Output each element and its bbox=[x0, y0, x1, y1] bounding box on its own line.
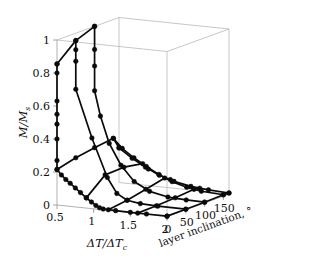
series-inclination-50-marker-4 bbox=[90, 136, 95, 141]
series-inclination-165-line bbox=[119, 148, 229, 193]
series-inclination-0-marker-5 bbox=[55, 137, 60, 142]
series-inclination-0-marker-11 bbox=[73, 186, 78, 191]
series-inclination-50-marker-1 bbox=[73, 47, 78, 52]
x-axis-title-sub: c bbox=[123, 243, 128, 252]
cross-temp-0.9-cross-marker-2 bbox=[122, 165, 127, 170]
cross-temp-1.2-cross-marker-1 bbox=[125, 198, 130, 203]
z-axis-title-text: M/Ms bbox=[16, 107, 32, 139]
data-series-layer bbox=[55, 24, 232, 218]
series-inclination-0-marker-6 bbox=[55, 158, 60, 163]
z-axis-title: M/Ms bbox=[16, 107, 32, 139]
cross-temp-2.0-cross-marker-2 bbox=[202, 200, 207, 205]
series-inclination-100-marker-10 bbox=[184, 198, 189, 203]
box-top-right bbox=[167, 29, 229, 52]
cross-temp-2.0-cross-marker-1 bbox=[183, 207, 188, 212]
series-inclination-150-marker-6 bbox=[184, 185, 189, 190]
cross-temp-2.0-cross-marker-0 bbox=[165, 214, 170, 219]
cross-temp-1.6-cross-marker-3 bbox=[192, 187, 197, 192]
x-tick-label-1: 1 bbox=[88, 215, 95, 228]
series-inclination-100-marker-7 bbox=[132, 179, 137, 184]
z-tick-label-2: 0.4 bbox=[33, 133, 51, 146]
series-inclination-100-marker-4 bbox=[98, 114, 103, 119]
series-inclination-165-marker-6 bbox=[206, 188, 211, 193]
series-inclination-0-marker-19 bbox=[128, 210, 133, 215]
cross-temp-1.6-cross-marker-1 bbox=[154, 203, 159, 208]
z-tick-label-3: 0.6 bbox=[33, 100, 51, 113]
box-top-left bbox=[57, 18, 119, 41]
series-inclination-100-marker-1 bbox=[92, 47, 97, 52]
cross-temp-0.5-cross-low-marker-2 bbox=[92, 145, 97, 150]
cross-temp-0.5-cross-marker-2 bbox=[92, 24, 97, 29]
series-inclination-50-marker-8 bbox=[138, 201, 143, 206]
series-inclination-100-marker-3 bbox=[92, 88, 97, 93]
series-inclination-0-marker-3 bbox=[55, 112, 60, 117]
series-inclination-100-line bbox=[95, 26, 205, 202]
cross-temp-1.2-cross-marker-4 bbox=[168, 177, 173, 182]
series-inclination-50-marker-3 bbox=[73, 87, 78, 92]
series-inclination-0-marker-14 bbox=[89, 200, 94, 205]
x-tick-label-0: 0.5 bbox=[46, 211, 64, 224]
z-tick-label-5: 1 bbox=[43, 34, 50, 47]
cross-temp-0.9-cross-marker-4 bbox=[146, 167, 151, 172]
series-inclination-0-marker-20 bbox=[144, 212, 149, 217]
cross-temp-1.2-cross-marker-0 bbox=[106, 207, 111, 212]
series-inclination-0-marker-10 bbox=[68, 181, 73, 186]
cross-temp-0.9-cross-marker-1 bbox=[103, 173, 108, 178]
x-tick-label-2: 1.5 bbox=[120, 219, 138, 232]
series-inclination-100-marker-2 bbox=[92, 64, 97, 69]
cross-temp-2.0-cross-marker-4 bbox=[227, 191, 232, 196]
series-inclination-50-marker-6 bbox=[115, 191, 120, 196]
z-tick-label-4: 0.8 bbox=[33, 67, 51, 80]
cross-temp-0.5-cross-marker-0 bbox=[55, 62, 60, 67]
cross-temp-0.5-cross-low-marker-4 bbox=[117, 146, 122, 151]
series-inclination-0-marker-18 bbox=[113, 208, 118, 213]
cross-temp-0.9-cross-marker-3 bbox=[140, 161, 145, 166]
axes-labels-layer: 00.20.40.60.810.511.52050100150M/MsΔT/ΔT… bbox=[16, 34, 254, 252]
series-inclination-0-marker-8 bbox=[59, 173, 64, 178]
cross-temp-1.6-cross-marker-4 bbox=[197, 186, 202, 191]
cross-temp-1.2-cross-marker-3 bbox=[162, 176, 167, 181]
cross-temp-1.6-cross-marker-2 bbox=[173, 196, 178, 201]
series-inclination-0-marker-4 bbox=[55, 122, 60, 127]
series-inclination-0-marker-2 bbox=[55, 99, 60, 104]
series-inclination-0-marker-12 bbox=[78, 190, 83, 195]
x-axis-title: ΔT/ΔTc bbox=[86, 236, 128, 252]
series-inclination-0-marker-9 bbox=[64, 177, 69, 182]
cross-temp-0.5-cross-marker-1 bbox=[73, 38, 78, 43]
series-inclination-165-marker-3 bbox=[157, 173, 162, 178]
series-inclination-100-marker-5 bbox=[107, 141, 112, 146]
series-inclination-50-marker-2 bbox=[73, 59, 78, 64]
cross-temp-0.9-cross-marker-0 bbox=[84, 196, 89, 201]
series-inclination-0-marker-1 bbox=[55, 71, 60, 76]
series-inclination-165-marker-1 bbox=[130, 156, 135, 161]
plot-figure: 00.20.40.60.810.511.52050100150M/MsΔT/ΔT… bbox=[0, 0, 336, 264]
z-axis-title-sub: s bbox=[23, 107, 32, 111]
series-inclination-100-marker-9 bbox=[166, 195, 171, 200]
series-inclination-0-marker-17 bbox=[101, 207, 106, 212]
plot-canvas: 00.20.40.60.810.511.52050100150M/MsΔT/ΔT… bbox=[0, 0, 336, 264]
cross-temp-1.2-cross-marker-2 bbox=[144, 187, 149, 192]
cross-temp-1.6-cross-marker-0 bbox=[135, 211, 140, 216]
cross-temp-0.5-cross-low-marker-1 bbox=[73, 155, 78, 160]
z-tick-label-1: 0.2 bbox=[33, 166, 51, 179]
cross-temp-0.5-cross-low-marker-0 bbox=[55, 167, 60, 172]
box-top-back bbox=[119, 18, 229, 30]
cross-temp-2.0-cross-marker-3 bbox=[221, 192, 226, 197]
cross-temp-0.5-cross-low-marker-3 bbox=[111, 136, 116, 141]
